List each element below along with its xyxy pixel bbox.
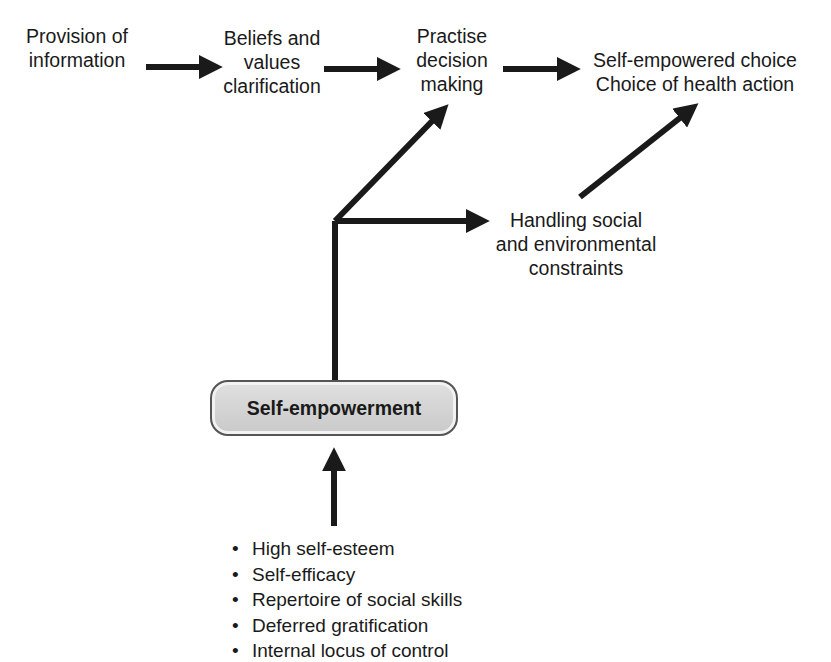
factor-list: High self-esteem Self-efficacy Repertoir… bbox=[232, 536, 462, 662]
factor-item: Internal locus of control bbox=[232, 638, 462, 662]
factor-item: High self-esteem bbox=[232, 536, 462, 562]
node-provision-of-information: Provision of information bbox=[18, 24, 136, 72]
node-self-empowered-choice: Self-empowered choice Choice of health a… bbox=[584, 48, 806, 96]
node-practise-decision-making: Practise decision making bbox=[406, 24, 498, 96]
node-handling-constraints: Handling social and environmental constr… bbox=[488, 208, 664, 280]
arrow-handling-to-outcome bbox=[580, 110, 690, 197]
node-beliefs-values-clarification: Beliefs and values clarification bbox=[218, 26, 326, 98]
node-self-empowerment: Self-empowerment bbox=[210, 380, 458, 436]
arrow-trunk-to-practise bbox=[335, 112, 441, 221]
factor-item: Deferred gratification bbox=[232, 613, 462, 639]
factor-item: Self-efficacy bbox=[232, 562, 462, 588]
factor-item: Repertoire of social skills bbox=[232, 587, 462, 613]
